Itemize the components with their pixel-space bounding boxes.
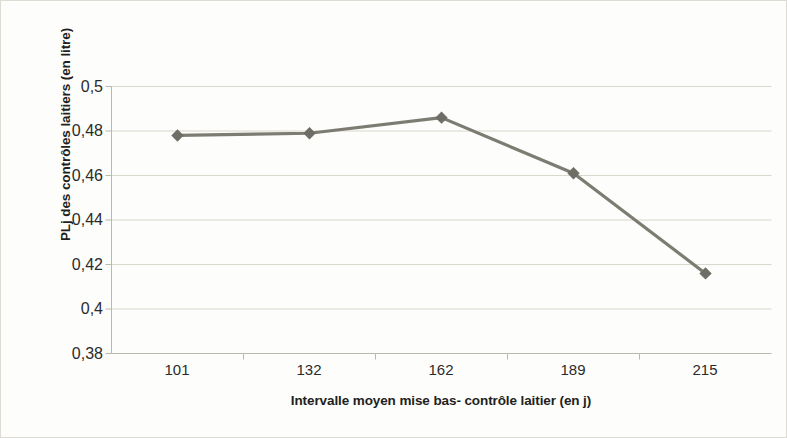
chart-figure: PLj des contrôles laitiers (en litre) 0,… [0, 0, 787, 438]
x-axis-title: Intervalle moyen mise bas- contrôle lait… [111, 393, 771, 408]
x-axis-tick-label: 132 [269, 361, 349, 378]
x-axis-tick-label: 101 [137, 361, 217, 378]
x-axis-tick-labels: 101132162189215 [111, 361, 771, 387]
x-axis-tick-label: 189 [533, 361, 613, 378]
x-axis-tick-label: 162 [401, 361, 481, 378]
data-point-marker [435, 111, 447, 123]
gridlines [112, 87, 772, 354]
data-line-series-1 [178, 118, 706, 274]
data-markers [171, 111, 711, 279]
data-point-marker [303, 127, 315, 139]
x-axis-tick-label: 215 [665, 361, 745, 378]
axis-ticks [106, 87, 640, 360]
